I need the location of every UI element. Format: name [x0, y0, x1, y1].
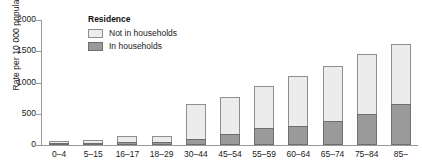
- bar-9: [323, 66, 343, 145]
- legend-swatch-icon-in-households: [88, 42, 103, 51]
- bar-segment-in-households: [186, 139, 206, 145]
- x-axis-line: [41, 145, 418, 146]
- y-axis-tick-label: 0: [0, 139, 44, 149]
- legend-swatch-icon-not-in-households: [88, 29, 103, 38]
- bar-segment-in-households: [220, 134, 240, 145]
- legend-label-in-households: In households: [109, 41, 162, 51]
- bar-segment-not-in-households: [391, 44, 411, 104]
- legend-item-not-in-households: Not in households: [88, 28, 177, 38]
- bar-segment-in-households: [254, 128, 274, 146]
- bar-segment-not-in-households: [357, 54, 377, 113]
- bar-3: [117, 136, 137, 145]
- bar-6: [220, 97, 240, 145]
- bar-segment-in-households: [391, 104, 411, 145]
- bar-segment-not-in-households: [186, 104, 206, 139]
- x-axis-tick-label: 85–: [378, 149, 422, 159]
- bar-5: [186, 104, 206, 145]
- bar-segment-in-households: [83, 143, 103, 146]
- bar-7: [254, 86, 274, 145]
- stacked-bar-chart: Rate per 10 000 population 0500100015002…: [0, 0, 422, 167]
- y-axis-tick-label: 500: [0, 108, 44, 118]
- y-axis-tick-label: 1000: [0, 77, 44, 87]
- bar-segment-in-households: [152, 142, 172, 145]
- bar-11: [391, 44, 411, 145]
- y-axis-tick-label: 1500: [0, 45, 44, 55]
- bar-segment-in-households: [323, 121, 343, 145]
- bar-segment-in-households: [117, 142, 137, 145]
- bar-segment-not-in-households: [220, 97, 240, 134]
- legend-item-in-households: In households: [88, 41, 177, 51]
- y-axis-tick-label: 2000: [0, 14, 44, 24]
- legend: Residence Not in households In household…: [88, 14, 177, 54]
- legend-title: Residence: [88, 14, 177, 24]
- bar-segment-in-households: [357, 114, 377, 145]
- bar-4: [152, 136, 172, 145]
- bar-segment-in-households: [49, 143, 69, 145]
- bar-8: [288, 76, 308, 145]
- bar-segment-not-in-households: [254, 86, 274, 128]
- bar-2: [83, 140, 103, 145]
- bar-1: [49, 141, 69, 145]
- bar-segment-not-in-households: [323, 66, 343, 121]
- bar-segment-in-households: [288, 126, 308, 145]
- bar-segment-not-in-households: [288, 76, 308, 125]
- legend-label-not-in-households: Not in households: [109, 28, 177, 38]
- bar-10: [357, 54, 377, 145]
